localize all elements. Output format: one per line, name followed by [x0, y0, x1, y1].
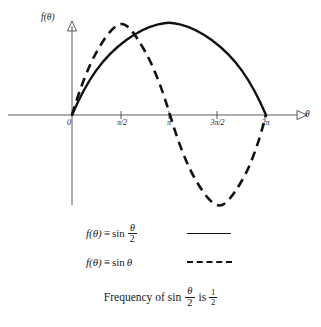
caption-sin-label: sin — [168, 291, 181, 303]
legend-sin-label-solid: sin — [112, 227, 125, 239]
plot-area: f(θ) θ 0 π/2 π 3π/2 2π — [0, 0, 321, 215]
x-tick-label-0: 0 — [62, 118, 76, 127]
legend-fn-label-dashed: f(θ) — [86, 256, 102, 268]
figure-container: f(θ) θ 0 π/2 π 3π/2 2π f(θ) ≡ sin θ 2 f(… — [0, 0, 321, 327]
legend-identity-symbol-dashed: ≡ — [104, 256, 110, 268]
caption-fraction-denominator: 2 — [185, 298, 194, 309]
legend-fraction-solid: θ 2 — [128, 223, 137, 244]
caption-lead-text: Frequency of — [104, 291, 165, 303]
x-tick-label-pi: π — [161, 118, 177, 127]
caption-is-word: is — [199, 291, 207, 303]
plot-svg — [0, 0, 321, 215]
x-tick-label-pi-over-2: π/2 — [109, 118, 135, 127]
legend-fn-label-solid: f(θ) — [86, 227, 102, 239]
caption-fraction-numerator: θ — [185, 286, 194, 297]
legend-expression-dashed: f(θ) ≡ sin θ — [86, 256, 132, 268]
legend-dashed-line-sample — [187, 261, 232, 263]
caption: Frequency of sin θ 2 is 1 2 — [0, 286, 321, 308]
x-tick-label-3pi-over-2: 3π/2 — [202, 118, 233, 127]
y-axis-label: f(θ) — [41, 12, 55, 22]
caption-value-one-half: 1 2 — [209, 288, 217, 306]
legend-expression-solid: f(θ) ≡ sin θ 2 — [86, 223, 138, 244]
x-tick-label-2pi: 2π — [255, 118, 276, 127]
legend-row-dashed: f(θ) ≡ sin θ — [0, 248, 321, 276]
legend-argument-dashed: θ — [127, 256, 132, 268]
x-axis-label: θ — [305, 109, 310, 119]
legend-fraction-denominator-solid: 2 — [128, 234, 137, 244]
legend-identity-symbol-solid: ≡ — [104, 227, 110, 239]
legend: f(θ) ≡ sin θ 2 f(θ) ≡ sin θ — [0, 215, 321, 277]
legend-sin-label-dashed: sin — [112, 256, 125, 268]
caption-value-denominator: 2 — [210, 298, 216, 307]
legend-solid-line-sample — [187, 233, 231, 234]
legend-fraction-numerator-solid: θ — [128, 223, 137, 233]
caption-value-numerator: 1 — [210, 288, 216, 297]
caption-fraction-theta-over-2: θ 2 — [185, 286, 194, 308]
curve-sin-half-theta — [72, 23, 266, 115]
legend-row-solid: f(θ) ≡ sin θ 2 — [0, 219, 321, 247]
